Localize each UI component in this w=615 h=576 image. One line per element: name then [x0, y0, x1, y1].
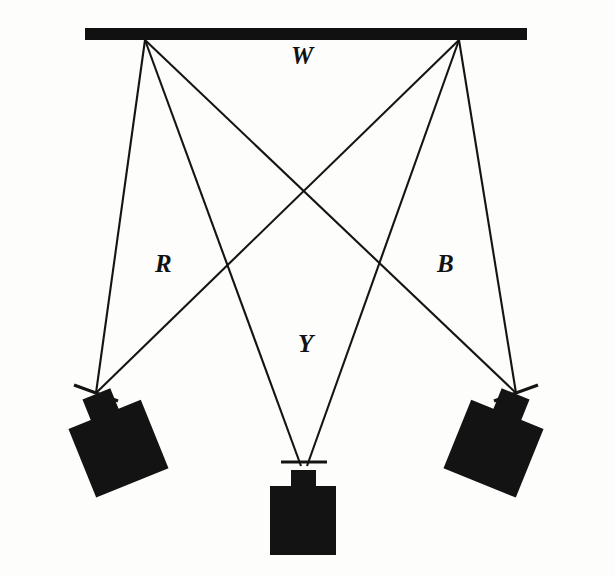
- left-camera-label-r: R: [155, 251, 172, 276]
- screen-bar: [85, 28, 527, 40]
- ray-left-to-left-camera: [96, 40, 145, 393]
- center-camera-label-y: Y: [298, 331, 314, 356]
- screen-label-w: W: [291, 43, 314, 68]
- ray-right-to-left-camera: [96, 40, 459, 393]
- ray-diagram-figure: W R Y B: [0, 0, 615, 576]
- ray-right-to-right-camera: [459, 40, 516, 393]
- left-camera-body: [68, 400, 168, 498]
- center-camera: [270, 470, 336, 555]
- left-camera: [60, 379, 168, 497]
- center-camera-body: [270, 486, 336, 555]
- ray-left-to-right-camera: [145, 40, 516, 393]
- diagram-canvas: [0, 0, 615, 576]
- right-camera-label-b: B: [437, 251, 454, 276]
- right-camera: [444, 379, 552, 497]
- right-camera-body: [444, 400, 544, 498]
